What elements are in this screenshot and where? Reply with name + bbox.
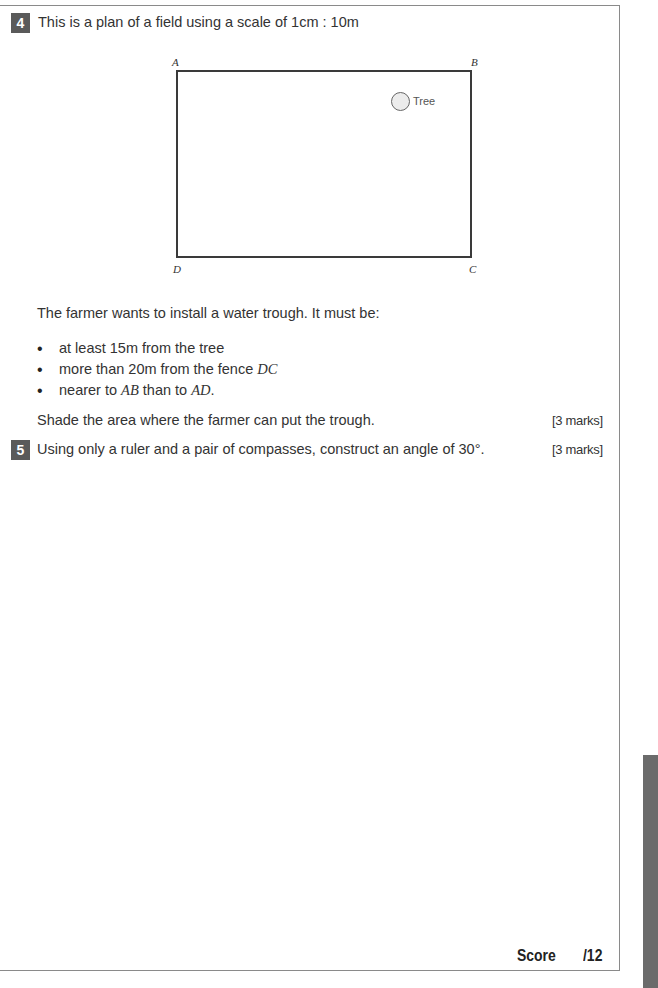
corner-label-b: B — [471, 56, 478, 68]
score-label: Score — [517, 946, 556, 966]
condition-item: at least 15m from the tree — [37, 338, 277, 359]
question-4-intro: The farmer wants to install a water trou… — [37, 305, 380, 321]
corner-label-d: D — [173, 263, 181, 275]
question-5-marks: [3 marks] — [552, 442, 603, 457]
condition-item: more than 20m from the fence DC — [37, 359, 277, 380]
tree-label: Tree — [413, 95, 435, 107]
question-4-marks: [3 marks] — [552, 413, 603, 428]
condition-item: nearer to AB than to AD. — [37, 380, 277, 401]
score-total: /12 — [583, 946, 602, 966]
side-tab — [643, 755, 658, 988]
condition-list: at least 15m from the tree more than 20m… — [37, 338, 277, 401]
question-5-prompt: Using only a ruler and a pair of compass… — [37, 441, 485, 457]
corner-label-c: C — [469, 263, 476, 275]
question-4-number: 4 — [11, 13, 30, 33]
question-5-number: 5 — [11, 440, 30, 460]
answer-space[interactable] — [10, 470, 610, 930]
question-4-prompt: This is a plan of a field using a scale … — [38, 14, 359, 30]
question-4-instruction: Shade the area where the farmer can put … — [37, 412, 375, 428]
corner-label-a: A — [172, 56, 179, 68]
tree-icon — [391, 92, 410, 111]
